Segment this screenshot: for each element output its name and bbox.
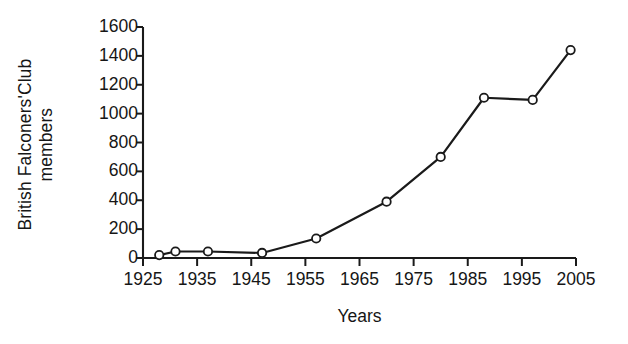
data-point-1931 <box>171 247 179 255</box>
axis-tick-marks <box>136 27 576 266</box>
axis-lines <box>143 27 576 258</box>
data-line-series-1 <box>159 50 570 255</box>
data-point-1970 <box>382 197 390 205</box>
data-point-1988 <box>480 94 488 102</box>
data-point-markers <box>155 46 575 259</box>
series-polyline <box>159 50 570 255</box>
plot-area <box>0 0 628 344</box>
chart-figure: British Falconers'Club members 020040060… <box>0 0 628 344</box>
data-point-1957 <box>312 234 320 242</box>
data-point-2004 <box>566 46 574 54</box>
data-point-1980 <box>436 153 444 161</box>
data-point-1937 <box>204 247 212 255</box>
data-point-1997 <box>529 96 537 104</box>
data-point-1947 <box>258 249 266 257</box>
data-point-1928 <box>155 251 163 259</box>
